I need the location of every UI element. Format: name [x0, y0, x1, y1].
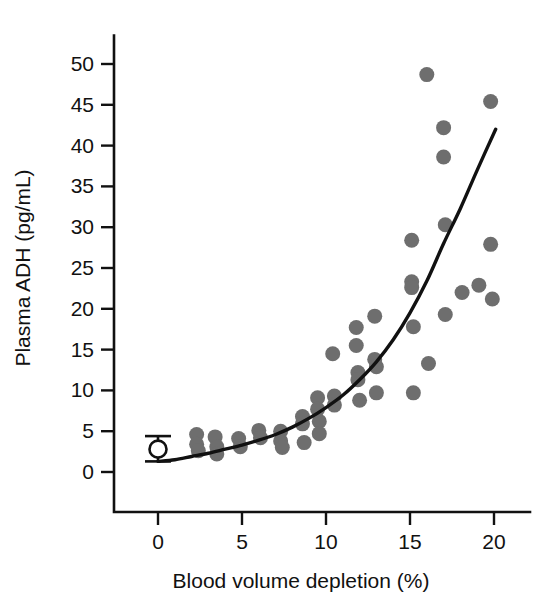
data-point: [312, 426, 327, 441]
y-tick-labels: 05101520253035404550: [71, 52, 94, 483]
data-point: [369, 385, 384, 400]
data-point: [297, 435, 312, 450]
data-point: [436, 120, 451, 135]
data-point: [419, 67, 434, 82]
data-point: [438, 307, 453, 322]
data-point: [471, 278, 486, 293]
fit-curve-path: [158, 129, 496, 461]
x-tick-label: 5: [236, 530, 248, 553]
data-point: [367, 309, 382, 324]
y-axis-title: Plasma ADH (pg/mL): [11, 169, 34, 366]
y-tick-label: 20: [71, 297, 94, 320]
data-point: [349, 338, 364, 353]
y-tick-marks: [101, 64, 114, 472]
data-point: [406, 385, 421, 400]
data-point: [325, 346, 340, 361]
x-tick-label: 15: [398, 530, 421, 553]
y-tick-label: 35: [71, 174, 94, 197]
y-tick-label: 15: [71, 338, 94, 361]
data-point: [404, 280, 419, 295]
y-tick-label: 5: [82, 419, 94, 442]
x-tick-labels: 05101520: [152, 530, 506, 553]
data-point: [275, 440, 290, 455]
data-point: [421, 356, 436, 371]
fit-curve-group: [158, 129, 496, 461]
x-tick-label: 0: [152, 530, 164, 553]
y-tick-label: 45: [71, 93, 94, 116]
y-tick-label: 30: [71, 215, 94, 238]
x-tick-label: 10: [314, 530, 337, 553]
y-tick-label: 25: [71, 256, 94, 279]
data-point: [485, 292, 500, 307]
data-point: [404, 233, 419, 248]
scatter-plot: 05101520 05101520253035404550 Blood volu…: [0, 0, 543, 612]
data-point: [349, 320, 364, 335]
y-tick-label: 40: [71, 134, 94, 157]
data-point: [483, 237, 498, 252]
reference-point-group: [145, 436, 171, 461]
x-tick-label: 20: [482, 530, 505, 553]
x-axis-title: Blood volume depletion (%): [173, 569, 430, 592]
data-point: [483, 94, 498, 109]
reference-point-marker: [150, 441, 167, 458]
y-tick-label: 10: [71, 378, 94, 401]
data-points-group: [189, 67, 500, 461]
chart-figure: 05101520 05101520253035404550 Blood volu…: [0, 0, 543, 612]
x-tick-marks: [158, 512, 494, 525]
y-tick-label: 0: [82, 460, 94, 483]
y-tick-label: 50: [71, 52, 94, 75]
data-point: [455, 285, 470, 300]
data-point: [352, 393, 367, 408]
data-point: [406, 319, 421, 334]
data-point: [436, 150, 451, 165]
